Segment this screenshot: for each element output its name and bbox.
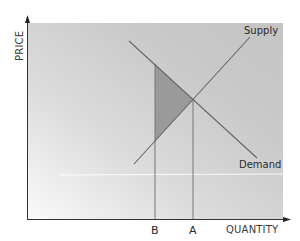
supply-label: Supply: [244, 25, 278, 36]
x-axis-label: QUANTITY: [226, 224, 279, 235]
x-axis-arrow-icon: [283, 217, 291, 222]
y-axis-arrow-icon: [25, 15, 30, 23]
y-axis-label: PRICE: [14, 31, 25, 61]
supply-demand-diagram: PRICE QUANTITY Supply Demand B A: [0, 0, 300, 241]
demand-label: Demand: [239, 159, 281, 170]
quantity-b-label: B: [151, 224, 159, 237]
quantity-a-label: A: [189, 224, 197, 237]
